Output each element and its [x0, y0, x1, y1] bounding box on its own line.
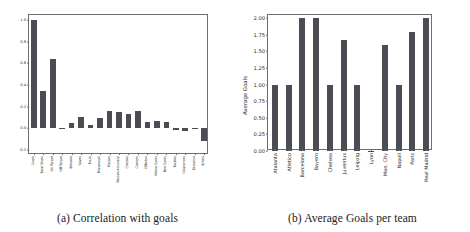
bar [192, 128, 198, 129]
panel-b: 2.001.751.501.251.000.750.500.250.00 Ata… [235, 0, 470, 232]
two-panel-figure: 1.00.80.60.40.20.0-0.2 GoalsTotal ShotsO… [0, 0, 470, 232]
x-tick-mark [185, 153, 186, 155]
y-tick-mark [266, 18, 268, 19]
bar [382, 45, 388, 151]
bar-series-average-goals [268, 15, 431, 149]
x-tick-label: Atletico [286, 153, 291, 172]
bar [299, 18, 305, 151]
y-tick-mark [27, 106, 29, 107]
y-tick-mark [27, 85, 29, 86]
y-tick-label: 0.50 [253, 115, 265, 121]
x-tick-label: Blocked [70, 156, 73, 169]
x-tick-label: Fouls [89, 156, 92, 164]
bar [40, 91, 46, 128]
x-tick-label: Chelsea [327, 153, 332, 172]
y-tick-label: 1.00 [253, 82, 265, 88]
x-tick-label: Crosses [127, 156, 130, 168]
bar [396, 85, 402, 151]
bar-series-correlation [29, 15, 207, 153]
y-tick-mark [266, 84, 268, 85]
x-tick-mark [330, 149, 331, 151]
y-tick-label: 0.6 [20, 61, 26, 65]
x-tick-label: Atalanta [272, 153, 277, 174]
correlation-bar-chart: 1.00.80.60.40.20.0-0.2 GoalsTotal ShotsO… [28, 14, 208, 154]
bar [313, 18, 319, 151]
y-tick-mark [27, 149, 29, 150]
x-tick-mark [53, 153, 54, 155]
x-tick-label: Total Shots [42, 156, 45, 173]
y-tick-label: 0.00 [253, 148, 265, 154]
x-tick-label: On Target [51, 156, 54, 171]
bar [69, 123, 75, 128]
bar [88, 125, 94, 128]
x-tick-mark [128, 153, 129, 155]
x-tick-label: Leipzig [355, 153, 360, 170]
x-tick-mark [385, 149, 386, 151]
x-tick-label: Passes [108, 156, 111, 167]
y-tick-mark [27, 128, 29, 129]
x-tick-label: Corners [136, 156, 139, 168]
x-tick-mark [289, 149, 290, 151]
x-tick-label: Saves [79, 156, 82, 166]
x-tick-mark [204, 153, 205, 155]
y-axis-title-average-goals: Average Goals [242, 76, 248, 115]
bar [126, 114, 132, 128]
y-tick-label: 2.00 [253, 15, 265, 21]
x-tick-label: Goals [32, 156, 35, 165]
x-tick-label: Off Target [60, 156, 63, 172]
bar [59, 128, 65, 129]
bar [409, 32, 415, 151]
y-tick-label: 0.4 [20, 83, 26, 87]
x-tick-label: Paris [410, 153, 415, 165]
y-tick-label: 0.8 [20, 40, 26, 44]
x-tick-label: Bayern [314, 153, 319, 170]
y-tick-label: -0.2 [19, 148, 26, 152]
caption-panel-a: (a) Correlation with goals [0, 212, 235, 224]
bar [116, 112, 122, 128]
bar [423, 18, 429, 151]
y-tick-mark [266, 134, 268, 135]
y-tick-mark [266, 151, 268, 152]
panel-a: 1.00.80.60.40.20.0-0.2 GoalsTotal ShotsO… [0, 0, 235, 232]
y-tick-mark [266, 51, 268, 52]
x-tick-label: Man. City [382, 153, 387, 176]
bar [50, 59, 56, 128]
x-tick-mark [399, 149, 400, 151]
bar [78, 117, 84, 128]
x-tick-mark [43, 153, 44, 155]
x-tick-mark [195, 153, 196, 155]
x-tick-mark [34, 153, 35, 155]
x-tick-mark [138, 153, 139, 155]
x-tick-mark [157, 153, 158, 155]
bar [368, 151, 374, 152]
bar [145, 122, 151, 128]
x-tick-mark [72, 153, 73, 155]
bar [164, 122, 170, 128]
x-tick-mark [147, 153, 148, 155]
y-tick-mark [266, 68, 268, 69]
y-tick-label: 1.50 [253, 48, 265, 54]
x-tick-mark [100, 153, 101, 155]
x-tick-mark [119, 153, 120, 155]
x-tick-label: Real Madrid [424, 153, 429, 182]
y-tick-label: 1.75 [253, 32, 265, 38]
bar [135, 111, 141, 128]
y-tick-mark [27, 20, 29, 21]
bar [354, 85, 360, 151]
x-tick-mark [357, 149, 358, 151]
bar [182, 128, 188, 131]
x-tick-mark [91, 153, 92, 155]
bar [173, 128, 179, 130]
bar [272, 85, 278, 151]
x-tick-label: Clearances [184, 156, 187, 174]
x-tick-label: Offsides [146, 156, 149, 169]
x-tick-label: Tackles [174, 156, 177, 168]
y-tick-label: 0.2 [20, 105, 26, 109]
x-tick-label: Errors [203, 156, 206, 165]
x-tick-mark [371, 149, 372, 151]
x-tick-label: Juventus [341, 153, 346, 174]
y-tick-mark [27, 42, 29, 43]
x-tick-label: Red Cards [165, 156, 168, 172]
x-tick-label: Barcelona [300, 153, 305, 177]
y-tick-mark [27, 63, 29, 64]
